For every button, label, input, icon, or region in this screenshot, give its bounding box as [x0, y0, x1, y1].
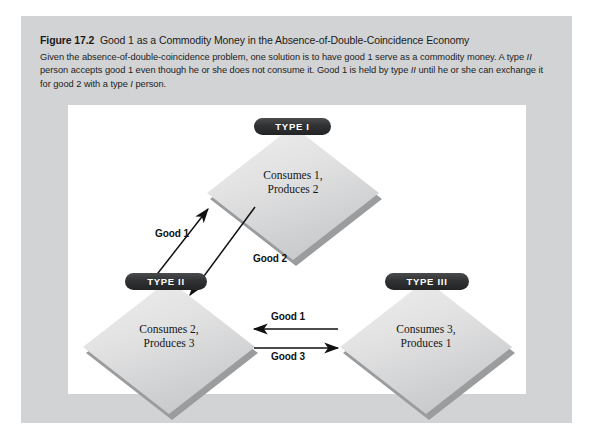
edge-label-good-3-horizontal: Good 3 — [271, 351, 305, 362]
pill-label-type-2: TYPE II — [125, 273, 207, 290]
caption-line-2-c: until he or she can — [416, 65, 494, 75]
arrow-good-1-diagonal — [151, 209, 208, 282]
pill-label-type-1: TYPE I — [254, 118, 331, 135]
caption-line-2-b: person accepts good 1 even though he or … — [40, 65, 411, 75]
figure-number: Figure 17.2 — [40, 34, 94, 46]
figure-title-text: Good 1 as a Commodity Money in the Absen… — [100, 34, 469, 46]
figure-title: Figure 17.2 Good 1 as a Commodity Money … — [40, 33, 545, 47]
edge-label-good-1-diagonal: Good 1 — [155, 228, 189, 239]
caption-line-3-b: person. — [133, 79, 166, 89]
edge-label-good-1-horizontal: Good 1 — [271, 311, 305, 322]
caption-line-2-a: type — [507, 52, 527, 62]
edge-label-good-2-diagonal: Good 2 — [253, 253, 287, 264]
figure-caption-text: Given the absence-of-double-coincidence … — [40, 51, 545, 91]
pill-label-type-3: TYPE III — [385, 273, 469, 290]
diagram-canvas: Good 1 Good 2 Good 1 Good 3 Consumes 1, … — [68, 105, 526, 394]
caption-line-1: Given the absence-of-double-coincidence … — [40, 52, 504, 62]
caption-emphasis-type-ii-1: II — [527, 52, 532, 62]
figure-caption-block: Figure 17.2 Good 1 as a Commodity Money … — [40, 33, 545, 91]
figure-panel: Figure 17.2 Good 1 as a Commodity Money … — [21, 16, 572, 423]
